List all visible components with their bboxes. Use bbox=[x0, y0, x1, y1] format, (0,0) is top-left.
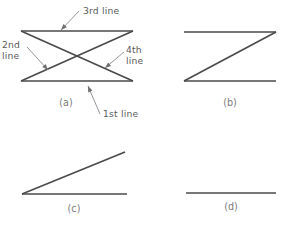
annotation-label-first-line: 1st line bbox=[103, 108, 138, 119]
annotation-label-third-line: 3rd line bbox=[83, 5, 120, 16]
panel-b-diagonal-line bbox=[184, 32, 276, 81]
line-drawing-figure: 3rd line2ndline4thline1st line (a)(b)(c)… bbox=[0, 0, 292, 226]
panel-caption-a: (a) bbox=[59, 97, 72, 108]
panel-caption-c: (c) bbox=[68, 203, 81, 214]
figure-canvas: 3rd line2ndline4thline1st line (a)(b)(c)… bbox=[0, 0, 292, 226]
panel-c-diagonal-line bbox=[22, 152, 125, 194]
annotation-label-fourth-line: 4thline bbox=[126, 44, 144, 66]
panel-caption-b: (b) bbox=[223, 97, 237, 108]
panel-caption-d: (d) bbox=[224, 201, 238, 212]
annotation-label-second-line: 2ndline bbox=[2, 39, 20, 61]
panel-lines-group bbox=[21, 31, 276, 194]
arrow-head-first-line bbox=[88, 86, 92, 92]
annotation-layer-group: 3rd line2ndline4thline1st line bbox=[2, 5, 144, 119]
caption-layer-group: (a)(b)(c)(d) bbox=[59, 97, 237, 214]
